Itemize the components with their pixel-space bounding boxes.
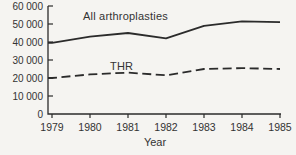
x-tick-label: 1983: [192, 121, 216, 133]
y-tick-label: 50 000: [12, 19, 43, 30]
x-tick-label: 1982: [154, 121, 178, 133]
y-tick-label: 20 000: [12, 73, 43, 84]
y-tick-label: 30 000: [12, 55, 43, 66]
chart-canvas: 010 00020 00030 00040 00050 00060 000197…: [0, 0, 296, 155]
series-label-all-arthroplasties: All arthroplasties: [83, 10, 168, 22]
series-line-all-arthroplasties: [48, 21, 280, 43]
x-tick-label: 1979: [40, 121, 64, 133]
x-axis-title: Year: [0, 136, 296, 148]
x-tick-label: 1981: [116, 121, 140, 133]
x-tick-label: 1985: [268, 121, 292, 133]
arthroplasty-trend-chart: 010 00020 00030 00040 00050 00060 000197…: [0, 0, 296, 155]
y-tick-label: 60 000: [12, 1, 43, 12]
y-tick-label: 10 000: [12, 91, 43, 102]
y-tick-label: 0: [37, 109, 43, 120]
series-line-thr: [48, 68, 280, 78]
x-tick-label: 1980: [78, 121, 102, 133]
series-label-thr: THR: [110, 60, 133, 72]
x-tick-label: 1984: [230, 121, 254, 133]
y-tick-label: 40 000: [12, 37, 43, 48]
